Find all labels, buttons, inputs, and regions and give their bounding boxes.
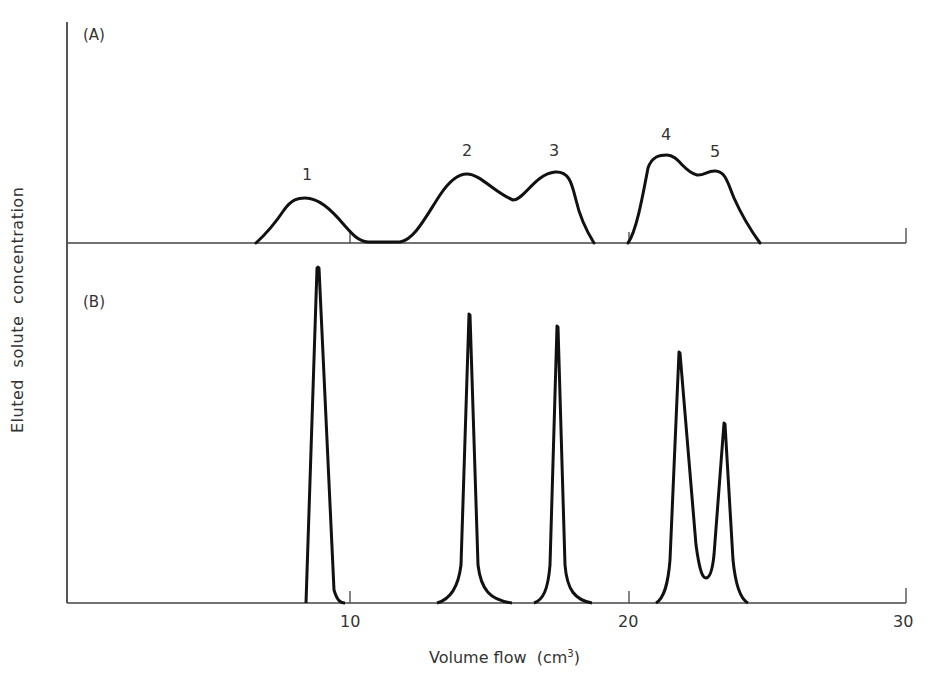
panel-a-curve-peaks-4-5	[628, 155, 760, 243]
peak-label-5: 5	[710, 142, 720, 161]
peak-label-2: 2	[462, 141, 472, 160]
x-tick-label-30: 30	[893, 612, 913, 631]
panel-a-label: (A)	[83, 26, 105, 44]
panel-b-peak-1	[306, 267, 345, 603]
peak-label-1: 1	[302, 165, 312, 184]
panel-b-peak-3	[534, 326, 592, 603]
chromatogram-plot	[0, 0, 936, 692]
panel-b-peak-2	[437, 314, 512, 603]
x-axis-label-text: Volume flow	[429, 648, 527, 667]
x-axis-unit-close: )	[574, 648, 580, 667]
x-axis-label: Volume flow (cm3)	[429, 648, 580, 667]
x-axis-unit: (cm	[537, 648, 568, 667]
x-tick-label-20: 20	[618, 612, 638, 631]
x-tick-label-10: 10	[340, 612, 360, 631]
panel-b-label: (B)	[83, 293, 105, 311]
panel-b-peaks-4-5	[656, 352, 748, 603]
peak-label-4: 4	[661, 125, 671, 144]
peak-label-3: 3	[549, 141, 559, 160]
y-axis-label: Eluted solute concentration	[8, 187, 27, 433]
